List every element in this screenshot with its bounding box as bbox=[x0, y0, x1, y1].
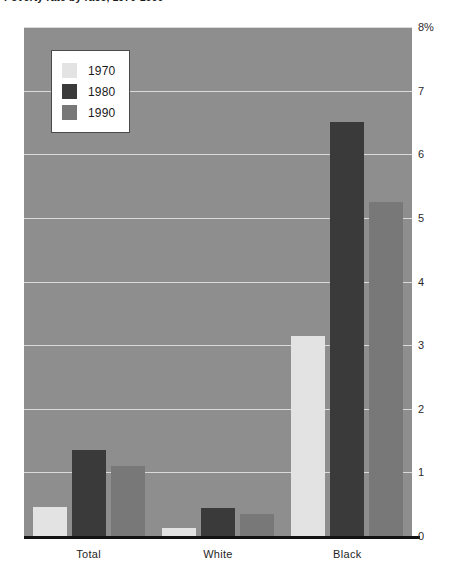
chart-legend: 197019801990 bbox=[51, 50, 130, 133]
legend-label-1980: 1980 bbox=[88, 85, 116, 99]
bar-black-1970 bbox=[291, 336, 325, 536]
legend-item-1990: 1990 bbox=[62, 102, 116, 123]
x-axis-label-black: Black bbox=[283, 548, 412, 560]
bar-total-1970 bbox=[33, 507, 67, 536]
x-axis-line bbox=[24, 536, 420, 539]
legend-label-1970: 1970 bbox=[88, 64, 116, 78]
y-axis-tick-4: 4 bbox=[418, 276, 448, 288]
legend-swatch-1980 bbox=[62, 84, 77, 99]
y-axis-tick-1: 1 bbox=[418, 466, 448, 478]
legend-label-1990: 1990 bbox=[88, 106, 116, 120]
bar-total-1980 bbox=[72, 450, 106, 536]
y-axis-tick-2: 2 bbox=[418, 403, 448, 415]
y-axis-tick-0: 0 bbox=[418, 530, 448, 542]
bar-white-1970 bbox=[162, 528, 196, 536]
y-axis-tick-3: 3 bbox=[418, 339, 448, 351]
bar-white-1990 bbox=[240, 514, 274, 536]
y-axis-tick-7: 7 bbox=[418, 85, 448, 97]
legend-swatch-1990 bbox=[62, 105, 77, 120]
legend-item-1970: 1970 bbox=[62, 60, 116, 81]
x-axis-label-white: White bbox=[153, 548, 282, 560]
bar-black-1990 bbox=[369, 202, 403, 536]
bar-white-1980 bbox=[201, 508, 235, 536]
legend-item-1980: 1980 bbox=[62, 81, 116, 102]
y-axis-tick-8pct: 8% bbox=[418, 21, 448, 33]
legend-swatch-1970 bbox=[62, 63, 77, 78]
bar-black-1980 bbox=[330, 122, 364, 536]
y-axis-tick-6: 6 bbox=[418, 148, 448, 160]
y-axis-tick-5: 5 bbox=[418, 212, 448, 224]
x-axis-label-total: Total bbox=[24, 548, 153, 560]
bar-total-1990 bbox=[111, 466, 145, 536]
chart-title: Poverty rate by race, 1970-1990 bbox=[4, 0, 304, 3]
gridline-8 bbox=[24, 27, 412, 28]
bar-chart-figure: Poverty rate by race, 1970-1990 01234567… bbox=[0, 0, 450, 587]
